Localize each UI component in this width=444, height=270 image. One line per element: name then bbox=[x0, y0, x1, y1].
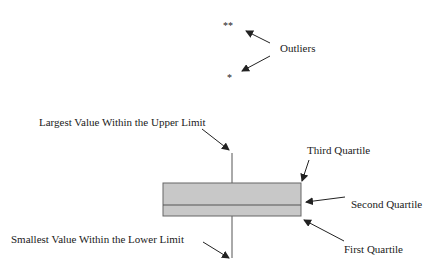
outlier-marker-double: ** bbox=[223, 21, 233, 31]
second-quartile-arrow bbox=[306, 197, 345, 202]
outlier-marker-single: * bbox=[227, 73, 232, 83]
second-quartile-label: Second Quartile bbox=[351, 199, 422, 210]
lower-whisker-label: Smallest Value Within the Lower Limit bbox=[11, 234, 184, 245]
interquartile-box bbox=[163, 183, 301, 216]
outlier-arrow-lower bbox=[242, 56, 270, 71]
lower-whisker-arrow bbox=[203, 242, 229, 258]
first-quartile-label: First Quartile bbox=[344, 244, 403, 255]
outliers-label: Outliers bbox=[280, 43, 315, 54]
outlier-arrow-upper bbox=[246, 31, 270, 43]
first-quartile-arrow bbox=[304, 220, 344, 241]
third-quartile-arrow bbox=[302, 160, 309, 181]
third-quartile-label: Third Quartile bbox=[307, 145, 370, 156]
upper-whisker-label: Largest Value Within the Upper Limit bbox=[39, 117, 206, 128]
upper-whisker-arrow bbox=[202, 129, 229, 150]
box-plot-diagram bbox=[0, 0, 444, 270]
